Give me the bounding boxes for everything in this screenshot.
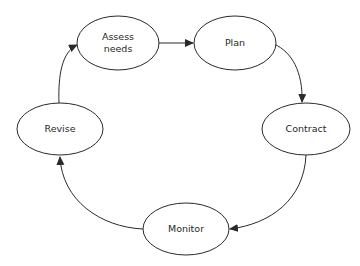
edge-monitor-to-revise — [60, 157, 143, 229]
edge-contract-to-monitor — [230, 155, 306, 229]
node-label-plan: Plan — [225, 37, 245, 49]
node-label-revise: Revise — [44, 123, 75, 135]
edge-revise-to-assess — [59, 45, 77, 103]
cycle-diagram: Assess needs Plan Contract Monitor Revis… — [0, 0, 360, 266]
node-label-assess-needs: Assess needs — [102, 31, 134, 55]
node-label-monitor: Monitor — [168, 223, 204, 235]
node-label-contract: Contract — [286, 123, 327, 135]
edge-plan-to-contract — [274, 44, 302, 102]
